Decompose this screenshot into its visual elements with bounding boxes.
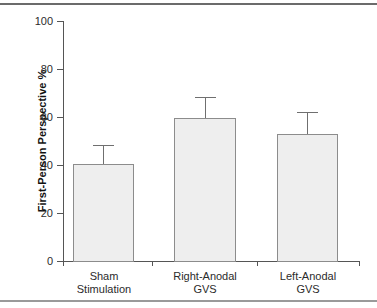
y-axis-title: First-Person Perspective % [36,21,48,261]
x-axis-label-right-anodal-gvs-line1: Right-Anodal [173,270,237,282]
error-bar-cap-right-anodal-gvs [195,97,216,98]
y-tick-label-100: 100 [35,16,53,27]
x-tick-left-end [63,261,64,266]
error-bar-stem-sham-stimulation [103,145,104,164]
x-tick-sep-1 [152,261,153,266]
x-axis-label-left-anodal-gvs: Left-Anodal GVS [262,270,354,296]
x-tick-sep-2 [257,261,258,266]
x-tick-right-end [359,261,360,266]
x-axis-label-sham-stimulation-line1: Sham [90,270,119,282]
bar-sham-stimulation[interactable] [73,164,134,262]
bar-left-anodal-gvs[interactable] [277,134,338,262]
y-axis-line [63,21,64,262]
error-bar-stem-right-anodal-gvs [205,97,206,118]
x-axis-label-right-anodal-gvs-line2: GVS [159,283,251,296]
y-tick-label-80: 80 [41,64,53,75]
y-tick-100 [57,21,63,22]
bar-right-anodal-gvs[interactable] [174,118,236,262]
bar-chart-plot-area: First-Person Perspective % 0 20 40 60 80… [0,0,377,308]
error-bar-cap-sham-stimulation [93,145,114,146]
error-bar-stem-left-anodal-gvs [307,112,308,134]
y-tick-label-20: 20 [41,208,53,219]
y-tick-20 [57,213,63,214]
x-axis-label-sham-stimulation: Sham Stimulation [58,270,150,296]
y-tick-label-60: 60 [41,112,53,123]
error-bar-cap-left-anodal-gvs [297,112,318,113]
x-axis-label-right-anodal-gvs: Right-Anodal GVS [159,270,251,296]
x-axis-label-left-anodal-gvs-line2: GVS [262,283,354,296]
y-tick-label-0: 0 [47,256,53,267]
x-axis-label-sham-stimulation-line2: Stimulation [58,283,150,296]
y-tick-label-40: 40 [41,160,53,171]
figure-container: First-Person Perspective % 0 20 40 60 80… [0,0,377,308]
y-tick-60 [57,117,63,118]
y-tick-40 [57,165,63,166]
y-tick-80 [57,69,63,70]
x-axis-label-left-anodal-gvs-line1: Left-Anodal [280,270,336,282]
